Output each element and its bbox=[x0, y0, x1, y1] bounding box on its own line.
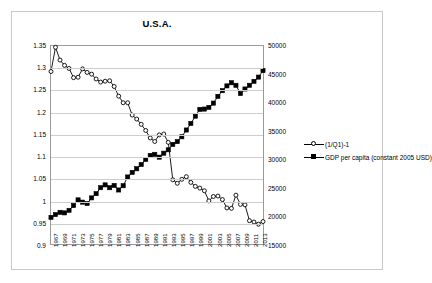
plot-area bbox=[50, 45, 264, 245]
data-point-marker bbox=[229, 81, 233, 85]
data-point-marker bbox=[117, 188, 121, 192]
data-point-marker bbox=[135, 167, 139, 171]
legend-label-gdp: GDP per capita (constant 2005 USD) bbox=[325, 154, 432, 161]
data-point-marker bbox=[94, 77, 98, 81]
x-tick-label: 1987 bbox=[144, 233, 150, 247]
gridline bbox=[51, 157, 263, 158]
y-tick-label-right: 45000 bbox=[268, 70, 308, 77]
data-point-marker bbox=[112, 183, 116, 187]
x-tick-label: 1979 bbox=[107, 233, 113, 247]
data-point-marker bbox=[153, 152, 157, 156]
data-point-marker bbox=[198, 107, 202, 111]
data-point-marker bbox=[121, 184, 125, 188]
gridline bbox=[51, 90, 263, 91]
y-tick-label-right: 50000 bbox=[268, 42, 308, 49]
data-point-marker bbox=[256, 75, 260, 79]
data-point-marker bbox=[234, 193, 238, 197]
data-point-marker bbox=[117, 94, 121, 98]
data-point-marker bbox=[94, 192, 98, 196]
legend-label-q1: (1/Q1)-1 bbox=[325, 141, 349, 148]
data-point-marker bbox=[54, 45, 58, 49]
data-point-marker bbox=[144, 128, 148, 132]
data-point-marker bbox=[67, 208, 71, 212]
data-point-marker bbox=[108, 79, 112, 83]
data-point-marker bbox=[175, 140, 179, 144]
series-canvas bbox=[51, 46, 263, 244]
series-line bbox=[51, 71, 263, 218]
data-point-marker bbox=[76, 75, 80, 79]
data-point-marker bbox=[247, 83, 251, 87]
data-point-marker bbox=[71, 203, 75, 207]
x-tick-label: 1989 bbox=[153, 233, 159, 247]
data-point-marker bbox=[103, 79, 107, 83]
data-point-marker bbox=[130, 113, 134, 117]
data-point-marker bbox=[238, 91, 242, 95]
x-tick-label: 1997 bbox=[189, 233, 195, 247]
x-tick-label: 1977 bbox=[98, 233, 104, 247]
data-point-marker bbox=[229, 206, 233, 210]
data-point-marker bbox=[112, 85, 116, 89]
data-point-marker bbox=[135, 117, 139, 121]
data-point-marker bbox=[121, 101, 125, 105]
data-point-marker bbox=[99, 80, 103, 84]
data-point-marker bbox=[216, 194, 220, 198]
x-tick-label: 1973 bbox=[80, 233, 86, 247]
data-point-marker bbox=[139, 122, 143, 126]
x-tick-label: 2007 bbox=[235, 233, 241, 247]
y-tick-label-left: 0.9 bbox=[14, 242, 46, 249]
data-point-marker bbox=[238, 202, 242, 206]
data-point-marker bbox=[53, 213, 57, 217]
gridline bbox=[51, 202, 263, 203]
y-tick-label-right: 35000 bbox=[268, 127, 308, 134]
y-tick-label-left: 1.35 bbox=[14, 42, 46, 49]
x-tick-label: 2005 bbox=[226, 233, 232, 247]
filled-square-marker-icon bbox=[304, 153, 324, 162]
data-point-marker bbox=[99, 186, 103, 190]
y-tick-label-right: 30000 bbox=[268, 156, 308, 163]
x-tick-label: 2001 bbox=[207, 233, 213, 247]
y-tick-label-right: 15000 bbox=[268, 242, 308, 249]
data-point-marker bbox=[85, 70, 89, 74]
gridline bbox=[51, 179, 263, 180]
x-tick-label: 1991 bbox=[162, 233, 168, 247]
data-point-marker bbox=[162, 151, 166, 155]
y-tick-label-left: 1.25 bbox=[14, 86, 46, 93]
y-tick-label-left: 1 bbox=[14, 197, 46, 204]
data-point-marker bbox=[189, 180, 193, 184]
open-circle-marker-icon bbox=[304, 140, 324, 149]
gridline bbox=[51, 224, 263, 225]
data-point-marker bbox=[90, 72, 94, 76]
data-point-marker bbox=[243, 203, 247, 207]
data-point-marker bbox=[202, 189, 206, 193]
y-tick-label-right: 40000 bbox=[268, 99, 308, 106]
data-point-marker bbox=[184, 128, 188, 132]
x-tick-label: 1983 bbox=[125, 233, 131, 247]
y-tick-label-left: 1.2 bbox=[14, 108, 46, 115]
legend-item-gdp: GDP per capita (constant 2005 USD) bbox=[304, 151, 430, 163]
data-point-marker bbox=[211, 101, 215, 105]
data-point-marker bbox=[63, 63, 67, 67]
data-point-marker bbox=[193, 114, 197, 118]
data-point-marker bbox=[108, 186, 112, 190]
gridline bbox=[51, 113, 263, 114]
x-tick-label: 1975 bbox=[89, 233, 95, 247]
x-tick-label: 1999 bbox=[198, 233, 204, 247]
data-point-marker bbox=[184, 175, 188, 179]
data-point-marker bbox=[49, 70, 53, 74]
gridline bbox=[51, 68, 263, 69]
data-point-marker bbox=[126, 101, 130, 105]
data-point-marker bbox=[247, 219, 251, 223]
data-point-marker bbox=[175, 181, 179, 185]
x-tick-label: 1993 bbox=[171, 233, 177, 247]
x-tick-label: 2013 bbox=[262, 233, 268, 247]
x-tick-label: 1985 bbox=[135, 233, 141, 247]
data-point-marker bbox=[166, 148, 170, 152]
data-point-marker bbox=[234, 83, 238, 87]
data-point-marker bbox=[225, 84, 229, 88]
chart-legend: (1/Q1)-1 GDP per capita (constant 2005 U… bbox=[304, 138, 430, 164]
chart-frame: U.S.A. 0.90.9511.051.11.151.21.251.31.35… bbox=[11, 11, 383, 270]
data-point-marker bbox=[58, 58, 62, 62]
data-point-marker bbox=[171, 142, 175, 146]
y-tick-label-right: 20000 bbox=[268, 213, 308, 220]
y-tick-label-right: 25000 bbox=[268, 184, 308, 191]
